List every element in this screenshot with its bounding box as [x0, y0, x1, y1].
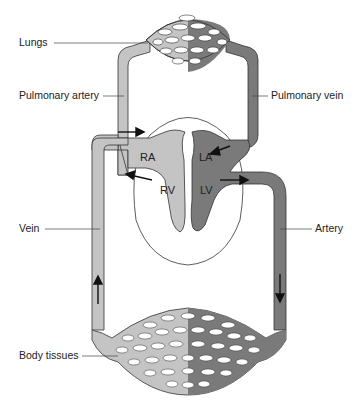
vein-label: Vein [19, 222, 39, 234]
diagram-graphic: RA LA RV LV [0, 0, 362, 409]
body-tissues-label: Body tissues [19, 349, 79, 361]
lungs-label: Lungs [19, 36, 48, 48]
artery-label: Artery [315, 222, 343, 234]
pulmonary-artery-label: Pulmonary artery [19, 89, 99, 101]
rv-label: RV [160, 184, 176, 196]
pulmonary-vein-label: Pulmonary vein [271, 89, 343, 101]
ra-label: RA [140, 151, 156, 163]
body-tissues-capillary-bed [92, 308, 286, 395]
lv-label: LV [200, 184, 213, 196]
pulmonary-vein-vessel [226, 40, 258, 148]
lungs-capillary-bed [146, 15, 230, 72]
circulation-diagram: RA LA RV LV Lungs Pulmonary artery Pulmo… [0, 0, 362, 409]
